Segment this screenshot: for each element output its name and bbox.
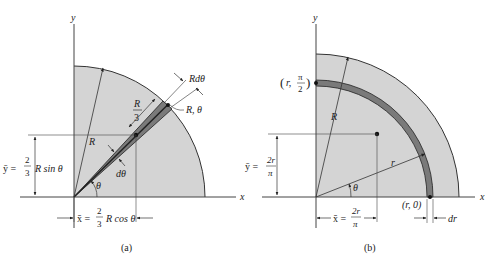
xbar-frac-den: π [353,219,358,229]
top-point-label-r: r, [286,77,291,88]
dr-label: dr [448,213,457,224]
top-point-paren-left: ( [280,75,284,90]
x-axis-label: x [479,191,485,202]
ybar-suffix: R sin θ [34,163,63,174]
xbar-frac-num: 2r [352,206,361,216]
panel-a: y x R R 3 Rdθ R, θ dθ θ ȳ = [3,12,245,254]
xbar-suffix: R cos θ [105,213,135,224]
x-axis-label: x [239,191,245,202]
ybar-prefix: ȳ = [3,163,17,174]
top-point-paren-right: ) [306,75,310,90]
ybar-frac-num: 2r [267,155,276,165]
panel-b: y x R r θ ( r, π 2 ) ȳ = 2r π x̄ = 2r [245,12,485,254]
width-arrow-2 [196,88,203,95]
r-third-num: R [133,98,140,109]
r-third-den: 3 [134,112,139,123]
theta-label: θ [96,180,101,191]
ybar-frac-num: 2 [25,155,30,165]
ybar-frac-den: π [268,168,273,178]
tip-point [166,103,170,107]
right-point [428,195,432,199]
xbar-prefix: x̄ = [333,213,347,224]
caption-a: (a) [121,242,132,254]
radius-label: R [88,136,95,147]
y-axis-label: y [70,12,76,23]
dtheta-label: dθ [116,168,126,179]
caption-b: (b) [364,242,376,254]
right-point-label: (r, 0) [402,199,422,211]
ybar-prefix: ȳ = [245,161,259,172]
ring-radius-label: r [391,157,395,168]
xbar-frac-den: 3 [97,219,102,229]
xbar-frac-num: 2 [97,206,102,216]
quarter-circle-area [316,54,459,197]
top-point-label-num: π [298,72,303,82]
y-axis-label: y [312,12,318,23]
top-point-label-den: 2 [298,84,303,94]
r-dtheta-label: Rdθ [188,73,205,84]
width-arrow-1 [174,73,183,81]
radius-label: R [330,111,337,122]
xbar-prefix: x̄ = [77,213,91,224]
tip-point-label: R, θ [185,104,202,115]
ybar-frac-den: 3 [25,168,30,178]
theta-label: θ [353,182,358,193]
centroid-diagram: y x R R 3 Rdθ R, θ dθ θ ȳ = [0,0,493,258]
top-point [314,81,318,85]
